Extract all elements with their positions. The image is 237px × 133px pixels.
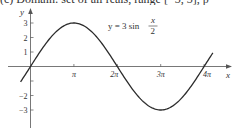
equation-numerator: x bbox=[150, 15, 155, 25]
y-tick-label: 3 bbox=[24, 19, 28, 28]
equation-denominator: 2 bbox=[151, 26, 156, 36]
y-axis-label: y bbox=[19, 7, 24, 17]
x-axis-arrow-icon bbox=[226, 64, 232, 69]
sine-graph: π2π3π4π 321−2−3 x y y = 3 sin x 2 bbox=[0, 0, 237, 133]
x-tick-label: 3π bbox=[156, 70, 166, 79]
y-tick-label: 1 bbox=[24, 48, 28, 57]
equation-label: y = 3 sin x 2 bbox=[108, 15, 158, 36]
equation-lhs: y = 3 sin bbox=[108, 21, 140, 31]
y-axis-arrow-icon bbox=[28, 8, 33, 14]
x-axis-label: x bbox=[225, 70, 230, 80]
y-tick-label: −3 bbox=[19, 106, 28, 115]
x-tick-label: π bbox=[72, 70, 77, 79]
y-tick-label: 2 bbox=[24, 34, 28, 43]
y-ticks: 321−2−3 bbox=[19, 19, 34, 115]
x-tick-label: 4π bbox=[203, 70, 212, 79]
x-tick-label: 2π bbox=[110, 70, 119, 79]
y-tick-label: −2 bbox=[19, 92, 28, 101]
